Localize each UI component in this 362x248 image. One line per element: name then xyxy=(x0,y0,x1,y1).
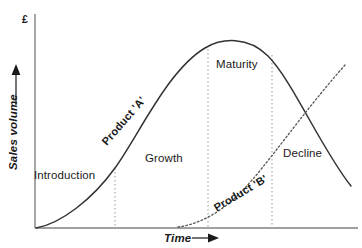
currency-unit-label: £ xyxy=(22,14,28,25)
curve-product-b xyxy=(178,65,345,227)
stage-label-maturity: Maturity xyxy=(216,59,258,71)
curve-product-a xyxy=(36,41,351,228)
x-axis-title: Time xyxy=(164,233,191,245)
right-arrow-icon xyxy=(192,233,219,242)
stage-label-growth: Growth xyxy=(145,153,183,165)
stage-label-introduction: Introduction xyxy=(34,170,95,182)
product-life-cycle-diagram: £ Sales volume Time Introduction Growth … xyxy=(0,0,362,248)
chart-plot-area xyxy=(0,0,362,248)
stage-label-decline: Decline xyxy=(283,148,322,160)
y-axis-title: Sales volume xyxy=(8,94,20,170)
